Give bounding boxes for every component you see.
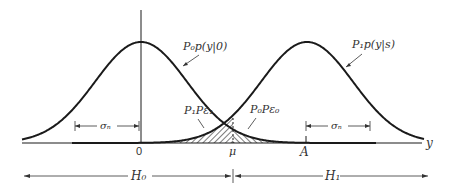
- pointer-arrow-e1: [198, 119, 204, 128]
- error-label-0: P₀Pε₀: [249, 103, 280, 116]
- sigma-marker-right: σₙ: [306, 120, 370, 131]
- svg-text:σₙ: σₙ: [100, 120, 111, 131]
- pointer-arrow-e0: [248, 118, 256, 129]
- sigma-marker-left: σₙ: [75, 120, 139, 131]
- diagram-canvas: y 0 μ A P₀p(y|0) P₁p(y|s) P₁Pε₁ P₀Pε₀ σₙ…: [0, 0, 452, 193]
- tick-label-0: 0: [136, 145, 142, 157]
- curve-label-h1: P₁p(y|s): [351, 38, 395, 52]
- decision-region-H1: H₁: [235, 169, 428, 183]
- tick-label-A: A: [299, 145, 309, 159]
- tick-label-mu: μ: [229, 145, 236, 158]
- curve-label-h0: P₀p(y|0): [182, 40, 227, 54]
- axis-label-y: y: [425, 136, 433, 150]
- density-curve-h1: [72, 42, 424, 143]
- svg-text:H₁: H₁: [324, 169, 340, 183]
- error-label-1: P₁Pε₁: [183, 104, 214, 117]
- decision-region-H0: H₀: [24, 169, 231, 183]
- svg-text:σₙ: σₙ: [331, 120, 342, 131]
- svg-text:H₀: H₀: [130, 169, 146, 183]
